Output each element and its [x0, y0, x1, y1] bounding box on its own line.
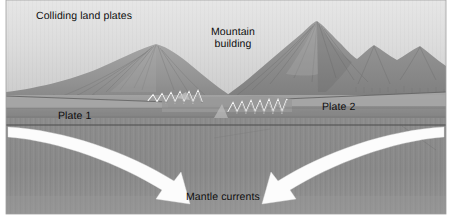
label-mountain-building: Mountain building [196, 26, 270, 50]
geology-diagram: Colliding land plates Mountain building … [0, 0, 452, 221]
label-plate-2: Plate 2 [322, 101, 355, 113]
label-mountain-building-line1: Mountain [211, 26, 255, 38]
label-mantle-currents: Mantle currents [186, 191, 260, 203]
label-colliding-land-plates: Colliding land plates [36, 10, 132, 22]
label-mountain-building-line2: building [215, 38, 252, 50]
label-plate-1: Plate 1 [58, 110, 91, 122]
